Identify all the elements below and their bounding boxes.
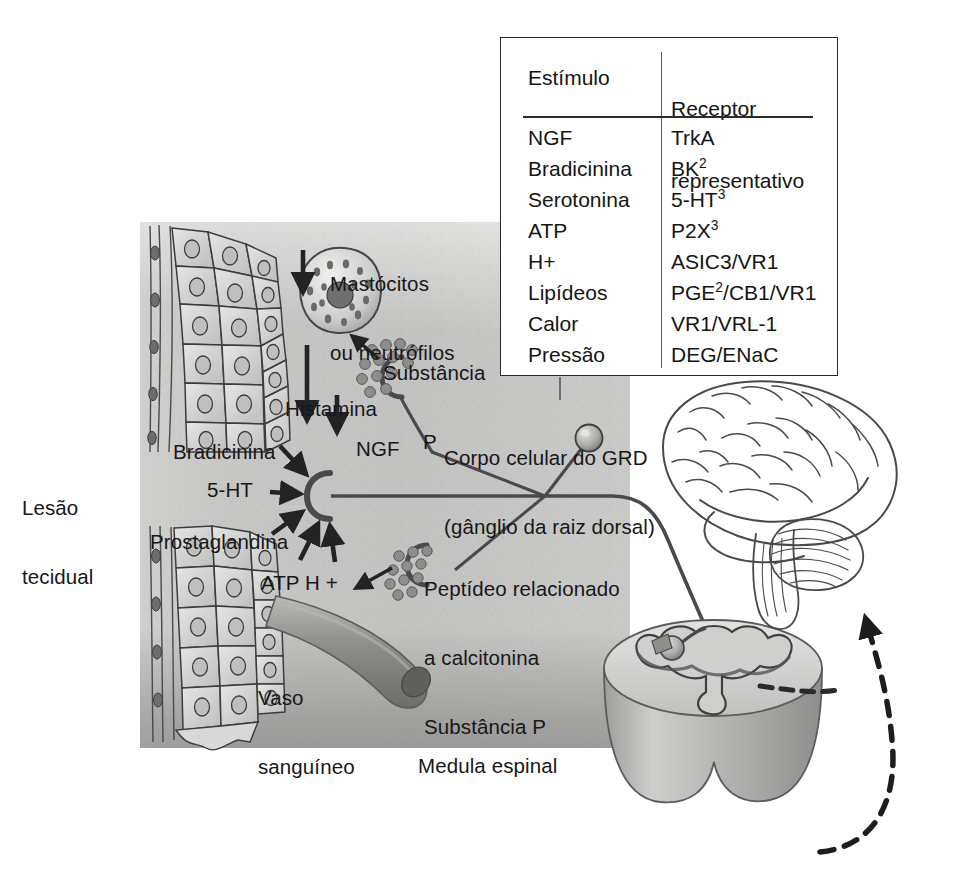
table-cell-receptor: BK2 [671, 157, 707, 181]
cerebrum-outline [663, 381, 897, 545]
ascending-pathway-dashed-arrow [820, 620, 893, 852]
label-blood-vessel-line2: sanguíneo [258, 755, 355, 778]
label-cgrp-substance-p: Peptídeo relacionado a calcitonina Subst… [424, 531, 620, 784]
table-cell-stimulus: Pressão [528, 343, 605, 367]
cerebellum-outline [770, 519, 863, 590]
table-cell-stimulus: Serotonina [528, 188, 630, 212]
label-atp-h: ATP H + [261, 571, 338, 594]
table-body: NGFTrkABradicininaBK2Serotonina5-HT3ATPP… [501, 126, 837, 374]
lateral-sulcus [700, 478, 868, 522]
cerebellum-folia [772, 529, 850, 587]
label-tissue-injury: Lesão tecidual [22, 450, 93, 634]
ascending-tract [760, 686, 838, 692]
label-bradykinin: Bradicinina [173, 440, 276, 463]
table-row: CalorVR1/VRL-1 [501, 312, 837, 343]
label-cgrp-line3: Substância P [424, 715, 620, 738]
grey-matter-butterfly [636, 626, 791, 714]
cord-cross-section [604, 620, 822, 716]
spinal-cord [604, 620, 838, 802]
table-row: BradicininaBK2 [501, 157, 837, 188]
table-cell-stimulus: ATP [528, 219, 567, 243]
table-cell-receptor: 5-HT3 [671, 188, 725, 212]
table-cell-stimulus: Bradicinina [528, 157, 632, 181]
table-cell-stimulus: Lipídeos [528, 281, 607, 305]
brainstem-outline [753, 530, 798, 629]
receptor-superscript: 2 [699, 155, 707, 171]
label-tissue-injury-line2: tecidual [22, 565, 93, 588]
receptor-superscript: 3 [711, 217, 719, 233]
table-cell-receptor: P2X3 [671, 219, 718, 243]
table-row: NGFTrkA [501, 126, 837, 157]
label-cgrp-line2: a calcitonina [424, 646, 620, 669]
label-ngf: NGF [356, 437, 400, 460]
table-cell-stimulus: Calor [528, 312, 578, 336]
receptor-superscript: 2 [715, 279, 723, 295]
table-cell-receptor: DEG/ENaC [671, 343, 778, 367]
label-spinal-cord: Medula espinal [418, 754, 557, 777]
table-header-stimulus: Estímulo [528, 66, 610, 90]
figure-canvas: Estímulo Receptor representativo NGFTrkA… [0, 0, 963, 869]
table-header-rule [523, 116, 813, 118]
brainstem-striations [762, 538, 786, 616]
table-row: H+ASIC3/VR1 [501, 250, 837, 281]
table-cell-stimulus: NGF [528, 126, 572, 150]
label-tissue-injury-line1: Lesão [22, 496, 93, 519]
label-mast-cells-line1: Mastócitos [330, 272, 454, 295]
label-drg-line1: Corpo celular do GRD [444, 446, 655, 469]
label-substance-p-line1: Substância [383, 361, 485, 384]
table-header: Estímulo Receptor representativo [501, 38, 837, 110]
stimulus-receptor-table: Estímulo Receptor representativo NGFTrkA… [500, 37, 838, 376]
label-histamine: Histamina [285, 397, 377, 420]
table-row: ATPP2X3 [501, 219, 837, 250]
dorsal-horn-entry [652, 634, 672, 654]
table-cell-receptor: TrkA [671, 126, 715, 150]
table-row: LipídeosPGE2/CB1/VR1 [501, 281, 837, 312]
dorsal-root-bouton [660, 636, 684, 660]
temporal-lobe [704, 512, 804, 562]
table-cell-receptor: ASIC3/VR1 [671, 250, 778, 274]
table-row: Serotonina5-HT3 [501, 188, 837, 219]
brain [663, 381, 897, 629]
label-blood-vessel: Vaso sanguíneo [258, 640, 355, 824]
receptor-superscript: 3 [718, 186, 726, 202]
table-cell-receptor: PGE2/CB1/VR1 [671, 281, 816, 305]
table-cell-receptor: VR1/VRL-1 [671, 312, 777, 336]
label-cgrp-line1: Peptídeo relacionado [424, 577, 620, 600]
dorsal-root [676, 628, 706, 648]
label-blood-vessel-line1: Vaso [258, 686, 355, 709]
grey-matter-shading [638, 654, 790, 675]
table-row: PressãoDEG/ENaC [501, 343, 837, 374]
label-serotonin: 5-HT [207, 478, 253, 501]
label-prostaglandin: Prostaglandina [150, 530, 288, 553]
table-cell-stimulus: H+ [528, 250, 555, 274]
